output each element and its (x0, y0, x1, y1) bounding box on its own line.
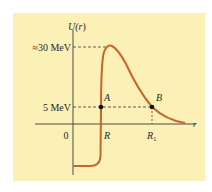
tick-r1-label: R1 (146, 130, 157, 143)
point-b-label: B (156, 92, 162, 103)
tick-r-label: R (103, 130, 110, 141)
level-5-mev-label: 5 MeV (43, 102, 72, 113)
r-axis-label: r (193, 119, 197, 129)
potential-curve (73, 46, 185, 166)
origin-label: 0 (64, 130, 69, 141)
point-a-label: A (103, 92, 111, 103)
y-axis-label: U(r) (68, 21, 86, 33)
potential-energy-diagram: U(r) ≈30 MeV 5 MeV 0 r A B R R1 (0, 0, 212, 192)
point-b-marker (150, 105, 155, 110)
point-a-marker (99, 105, 104, 110)
level-30-mev-label: ≈30 MeV (32, 42, 71, 53)
